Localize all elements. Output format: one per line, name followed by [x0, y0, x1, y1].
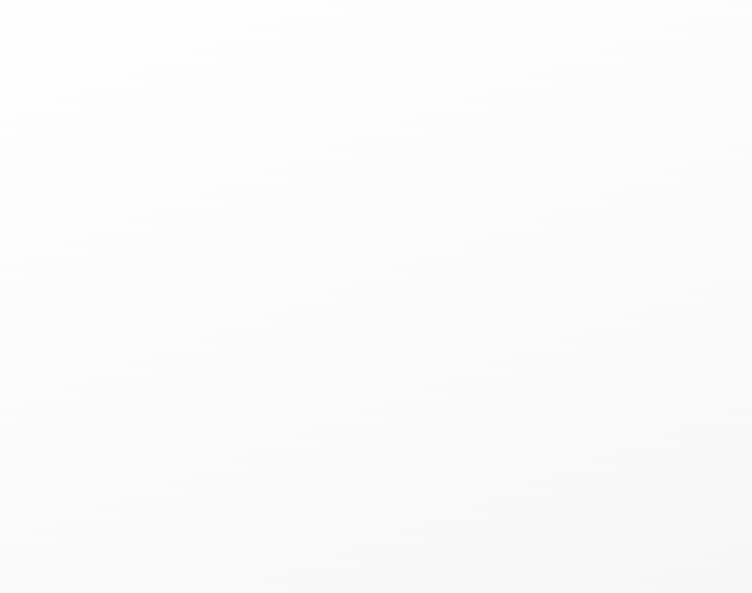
row-label: Ministers [33, 307, 295, 328]
bar-segment-remaining [596, 457, 712, 506]
source-line-1: Source: LinkedIn data featured in the [33, 537, 368, 555]
bar-value-label: 67.6% [315, 391, 363, 410]
bar-track: 71.8% [302, 457, 712, 506]
bar-track: 67.6% [302, 375, 712, 426]
row-label: Heads of State [33, 226, 295, 247]
bar-value-label: 71.8% [315, 472, 363, 491]
row-label: AI skills [33, 470, 295, 491]
bar-track: 81.1% [302, 212, 712, 265]
bar-value-label: 81.1% [315, 229, 363, 248]
bar-chart: Heads of State 81.1% Ministers 79.2% Man… [0, 0, 752, 593]
source-report-rest: 2018, World Economic Forum [191, 556, 369, 571]
bar-segment-closed: 67.6% [302, 375, 579, 426]
bar-segment-remaining [635, 212, 713, 265]
row-label: Managers, senior officials, legislators [33, 378, 295, 420]
bar-value-label: 79.2% [315, 309, 363, 328]
bar-segment-remaining [627, 293, 712, 345]
bar-track: 79.2% [302, 293, 712, 345]
bar-segment-closed: 79.2% [302, 293, 627, 345]
bar-segment-closed: 71.8% [302, 457, 596, 506]
bar-segment-remaining [579, 375, 712, 426]
source-line-2: Global Gender Gap Report 2018, World Eco… [33, 555, 368, 573]
bar-segment-closed: 81.1% [302, 212, 635, 265]
source-note: Source: LinkedIn data featured in the Gl… [33, 537, 368, 572]
source-report-title: Global Gender Gap Report [33, 556, 191, 571]
